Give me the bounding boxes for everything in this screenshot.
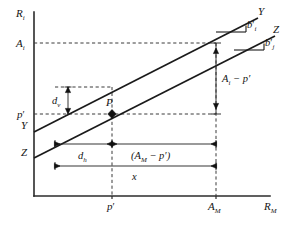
line-Y-label-left: Y: [21, 119, 29, 131]
line-Z: [34, 36, 275, 158]
x-axis-label: RM: [263, 200, 278, 215]
x-tick-label-pprime: p′: [106, 200, 115, 212]
dim-ai-arrow-bottom: [213, 103, 218, 109]
dim-dv-group: [65, 87, 72, 114]
dim-dv-label: dv: [52, 95, 61, 109]
line-Y-label-right: Y: [258, 5, 266, 17]
dim-dh-label: dh: [78, 150, 87, 164]
slope-label-Y: b′i: [247, 19, 256, 33]
y-axis-label: Ri: [15, 7, 25, 22]
label-group: Ri Ai p′ RM p′ AM Y Z Y Z b′i b′j: [15, 5, 280, 215]
angle-marker-group: [216, 26, 264, 51]
dim-x-arrow-left: [54, 163, 60, 168]
dim-am-arrow-right: [211, 141, 217, 146]
axis-group: [34, 12, 270, 196]
dim-am-arrow-left: [111, 141, 117, 146]
line-Z-label-right: Z: [273, 23, 280, 35]
dim-ai-group: [211, 43, 221, 114]
dashed-guide-group: [34, 43, 216, 196]
dim-dv-arrow-top: [65, 87, 70, 93]
dim-x-label: x: [131, 171, 137, 182]
x-tick-label-AM: AM: [207, 200, 222, 215]
figure-container: Ri Ai p′ RM p′ AM Y Z Y Z b′i b′j: [0, 0, 289, 232]
slope-label-Z: b′j: [265, 37, 274, 51]
data-line-group: [34, 18, 275, 158]
dim-am-label: (AM − p′): [131, 150, 171, 164]
dim-ai-label: Ai − p′: [221, 73, 251, 87]
line-Z-label-left: Z: [21, 146, 28, 158]
y-tick-label-Ai: Ai: [15, 37, 25, 52]
point-P-label: P: [105, 96, 113, 108]
dim-ai-arrow-top: [213, 48, 218, 54]
diagram-svg: Ri Ai p′ RM p′ AM Y Z Y Z b′i b′j: [0, 0, 289, 232]
dim-x-arrow-right: [211, 163, 217, 168]
